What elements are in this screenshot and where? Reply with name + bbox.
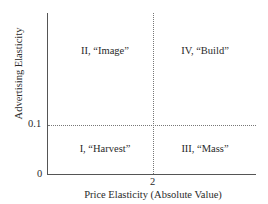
y-axis-label: Advertising Elasticity [13,14,24,134]
quadrant-top-right-label: IV, “Build” [160,45,250,56]
quadrant-bottom-left-label: I, “Harvest” [60,143,150,154]
y-threshold-tick: 0.1 [28,118,41,129]
y-axis-line [47,13,48,175]
horizontal-threshold-line [48,125,256,126]
vertical-threshold-line [153,13,154,174]
x-axis-line [47,174,256,175]
x-axis-label: Price Elasticity (Absolute Value) [47,189,259,200]
origin-tick: 0 [37,168,42,179]
x-threshold-tick: 2 [150,176,155,187]
quadrant-top-left-label: II, “Image” [60,45,150,56]
quadrant-bottom-right-label: III, “Mass” [160,143,250,154]
